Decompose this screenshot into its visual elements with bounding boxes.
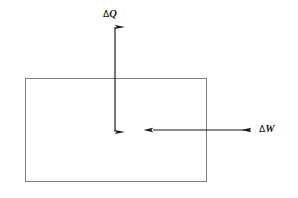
work-symbol: W (265, 123, 275, 134)
thermodynamic-system-diagram: ΔQ ΔW (0, 0, 298, 198)
diagram-canvas (0, 0, 298, 198)
heat-symbol: Q (109, 8, 117, 19)
heat-transfer-label: ΔQ (103, 8, 117, 19)
work-transfer-label: ΔW (259, 123, 275, 134)
